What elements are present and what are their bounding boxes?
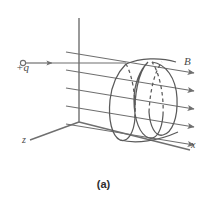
helix-loop-1-front (109, 64, 135, 140)
charge-label: +q (16, 62, 29, 73)
diagram-canvas (0, 0, 207, 201)
axis-label-x: x (191, 140, 195, 150)
magnetic-field-label: B (184, 56, 191, 67)
coordinate-axes (30, 18, 190, 150)
charge-incoming-path (20, 60, 126, 65)
figure-caption: (a) (0, 178, 207, 190)
field-line-3 (66, 88, 194, 109)
helix-loop-1-back (126, 64, 135, 118)
axis-label-z: z (22, 135, 26, 145)
physics-figure-helical-motion: +q B z x (a) (0, 0, 207, 201)
helix-loop-2-back (152, 62, 163, 115)
field-line-2 (66, 70, 194, 91)
x-axis-line (79, 122, 190, 150)
magnetic-field-lines (66, 52, 194, 145)
